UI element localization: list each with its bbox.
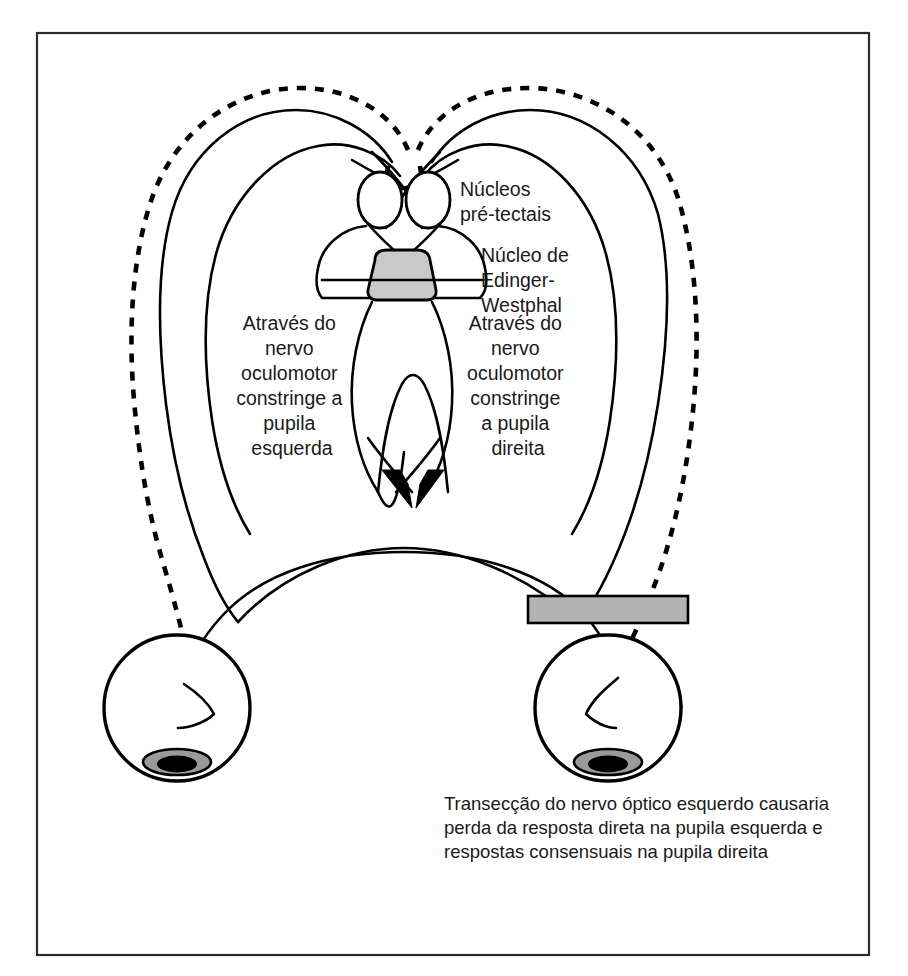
pretectal-nucleus-right <box>406 172 450 228</box>
label-left-line5: pupila <box>263 412 315 434</box>
label-ew-line2: Edinger- <box>481 269 555 291</box>
caption-line2: perda da resposta direta na pupila esque… <box>444 817 823 838</box>
pretectal-nucleus-left <box>358 172 402 228</box>
right-eye-pupil <box>588 756 628 773</box>
label-right-line5: a pupila <box>481 412 549 434</box>
caption-line1: Transecção do nervo óptico esquerdo caus… <box>444 793 830 814</box>
label-right-line3: oculomotor <box>467 362 564 384</box>
label-left-line3: oculomotor <box>241 362 338 384</box>
label-left-line1: Através do <box>243 312 336 334</box>
label-left-line4: constringe a <box>236 387 342 409</box>
label-left-line2: nervo <box>265 337 314 359</box>
label-right-line2: nervo <box>491 337 540 359</box>
label-pretectal-line2: pré-tectais <box>460 203 551 225</box>
label-edinger-westphal: Núcleo de Edinger- Westphal <box>481 244 574 316</box>
pupillary-reflex-diagram: Núcleos pré-tectais Núcleo de Edinger- W… <box>0 0 908 976</box>
label-right-pathway: Através do nervo oculomotor constringe a… <box>467 312 569 459</box>
label-right-line1: Através do <box>469 312 562 334</box>
figure-root: Núcleos pré-tectais Núcleo de Edinger- W… <box>0 0 908 976</box>
label-pretectal-line1: Núcleos <box>460 178 531 200</box>
label-right-line6: direita <box>491 437 544 459</box>
label-pretectal-nuclei: Núcleos pré-tectais <box>460 178 551 225</box>
figure-caption: Transecção do nervo óptico esquerdo caus… <box>444 793 834 862</box>
label-left-pathway: Através do nervo oculomotor constringe a… <box>236 312 348 459</box>
left-eye-pupil <box>157 756 197 773</box>
label-left-line6: esquerda <box>251 437 332 459</box>
arrowhead-left <box>382 470 412 508</box>
arrowhead-right <box>416 470 444 508</box>
caption-line3: respostas consensuais na pupila direita <box>444 841 769 862</box>
label-right-line4: constringe <box>470 387 560 409</box>
brainstem-outline-left <box>352 302 378 492</box>
transection-bar <box>528 596 688 623</box>
label-ew-line1: Núcleo de <box>481 244 569 266</box>
edinger-westphal-nucleus <box>368 250 436 300</box>
